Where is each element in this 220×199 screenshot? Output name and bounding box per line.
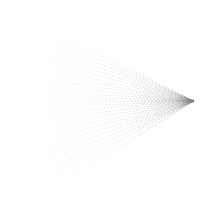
radial-burst-figure: [0, 0, 220, 199]
figure-canvas: [0, 0, 220, 199]
